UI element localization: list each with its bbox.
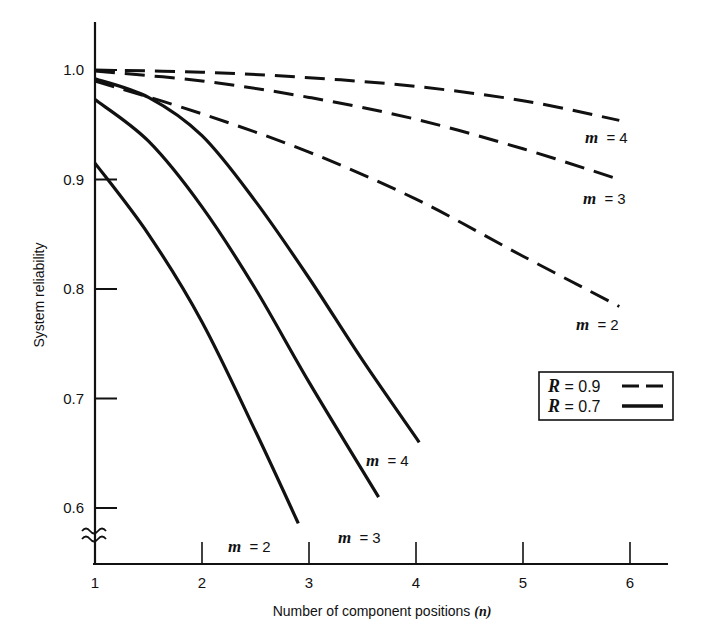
- curve-labels: m = 4m = 3m = 2m = 4m = 3m = 2: [228, 128, 628, 556]
- curve-label: m = 3: [583, 189, 626, 208]
- axes: [93, 22, 668, 564]
- x-axis-title-text: Number of component positions: [273, 603, 475, 619]
- reliability-chart: 0.60.70.80.91.0 123456 m = 4m = 3m = 2m …: [0, 0, 702, 639]
- x-tick-label: 1: [91, 574, 99, 591]
- curve-label: m = 2: [576, 315, 619, 334]
- y-tick-label: 0.6: [63, 499, 84, 516]
- legend: R = 0.9 R = 0.7: [539, 372, 673, 420]
- y-axis-title: System reliability: [31, 242, 47, 347]
- legend-entry-r07: R = 0.7: [547, 396, 601, 416]
- curve-label: m = 2: [228, 537, 271, 556]
- series-line-r09-m3: [95, 71, 619, 179]
- x-axis-title-var: (n): [474, 604, 491, 620]
- y-tick-label: 1.0: [63, 61, 84, 78]
- series-layer: [95, 70, 619, 523]
- legend-entry-r09: R = 0.9: [547, 376, 601, 396]
- x-tick-label: 2: [198, 574, 206, 591]
- series-line-r07-m4: [95, 79, 419, 443]
- series-line-r07-m3: [95, 100, 379, 498]
- curve-label: m = 4: [585, 128, 628, 147]
- y-tick-label: 0.9: [63, 171, 84, 188]
- x-tick-label: 6: [626, 574, 634, 591]
- x-axis-title: Number of component positions (n): [273, 603, 492, 620]
- x-tick-label: 3: [305, 574, 313, 591]
- x-tick-label: 5: [519, 574, 527, 591]
- curve-label: m = 4: [366, 451, 409, 470]
- y-tick-label: 0.8: [63, 280, 84, 297]
- curve-label: m = 3: [338, 528, 381, 547]
- x-ticks: 123456: [91, 542, 634, 591]
- y-ticks: 0.60.70.80.91.0: [63, 61, 117, 516]
- y-tick-label: 0.7: [63, 390, 84, 407]
- x-tick-label: 4: [412, 574, 420, 591]
